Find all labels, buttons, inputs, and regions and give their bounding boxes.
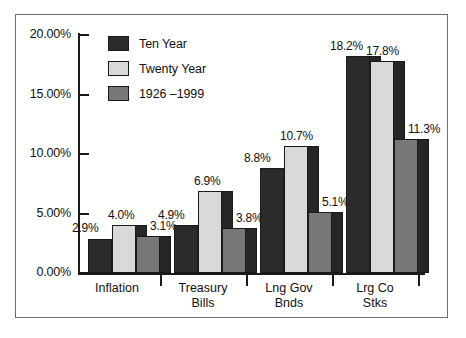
legend-swatch xyxy=(108,61,129,76)
bar-value-label: 18.2% xyxy=(330,39,363,53)
bar xyxy=(174,225,198,273)
bar-value-label: 4.9% xyxy=(158,208,185,222)
bar xyxy=(346,56,370,273)
bar xyxy=(198,191,222,273)
legend-item: Ten Year xyxy=(108,31,243,56)
y-axis-tick xyxy=(78,94,89,96)
bar-value-label: 8.8% xyxy=(244,151,271,165)
y-axis-tick-label: 15.00% xyxy=(30,87,71,101)
y-axis-tick-label: 5.00% xyxy=(37,206,71,220)
chart-frame: 0.00%5.00%10.00%15.00%20.00% 2.9%4.0%3.1… xyxy=(15,14,448,318)
category-label: Lng Gov Bnds xyxy=(246,281,332,311)
category-label: Lrg Co Stks xyxy=(332,281,418,311)
bar xyxy=(370,61,394,273)
bar xyxy=(222,228,246,273)
category-label: Inflation xyxy=(74,281,160,296)
bar-value-label: 4.0% xyxy=(108,208,135,222)
bar-value-label: 6.9% xyxy=(194,174,221,188)
bar-value-label: 11.3% xyxy=(408,122,440,136)
bar xyxy=(88,239,112,274)
x-axis-separator xyxy=(418,273,420,286)
legend-label: 1926 –1999 xyxy=(139,87,204,101)
bar-value-label: 17.8% xyxy=(366,44,399,58)
legend-swatch xyxy=(108,36,129,51)
bar xyxy=(284,146,308,273)
y-axis-tick xyxy=(78,153,89,155)
bar-value-label: 5.1% xyxy=(322,195,349,209)
chart-legend: Ten YearTwenty Year1926 –1999 xyxy=(108,31,243,106)
bar-value-label: 3.8% xyxy=(236,211,263,225)
bar xyxy=(112,225,136,273)
bar-value-label: 2.9% xyxy=(72,221,99,235)
y-axis-tick xyxy=(78,213,89,215)
legend-label: Ten Year xyxy=(139,37,187,51)
category-label: Treasury Bills xyxy=(160,281,246,311)
bar-value-label: 10.7% xyxy=(280,129,313,143)
plot-area: 0.00%5.00%10.00%15.00%20.00% 2.9%4.0%3.1… xyxy=(16,15,448,318)
y-axis-tick-label: 10.00% xyxy=(30,146,71,160)
x-axis-line xyxy=(78,273,425,275)
legend-swatch xyxy=(108,86,129,101)
bar xyxy=(394,139,418,273)
legend-item: Twenty Year xyxy=(108,56,243,81)
y-axis-tick-label: 0.00% xyxy=(37,265,71,279)
legend-label: Twenty Year xyxy=(139,62,206,76)
y-axis-tick-label: 20.00% xyxy=(30,27,71,41)
bar xyxy=(260,168,284,273)
bar xyxy=(136,236,160,273)
bar xyxy=(308,212,332,273)
legend-item: 1926 –1999 xyxy=(108,81,243,106)
y-axis-tick xyxy=(78,34,89,36)
